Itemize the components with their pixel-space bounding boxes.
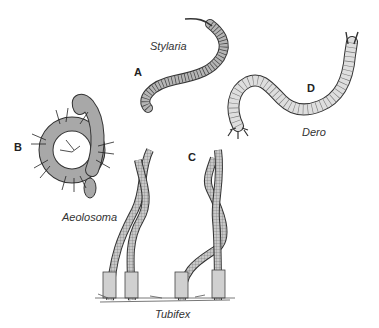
panel-letter-c: C xyxy=(188,151,196,163)
species-label-tubifex: Tubifex xyxy=(155,308,190,320)
panel-letter-a: A xyxy=(134,66,142,78)
panel-letter-b: B xyxy=(14,141,22,153)
stylaria-worm xyxy=(145,19,224,108)
worm-illustration xyxy=(0,0,379,328)
panel-letter-d: D xyxy=(307,82,315,94)
species-label-aeolosoma: Aeolosoma xyxy=(62,211,117,223)
species-label-dero: Dero xyxy=(302,126,326,138)
aeolosoma-worm xyxy=(31,101,114,198)
tubifex-worms xyxy=(95,150,235,302)
dero-worm xyxy=(228,32,358,139)
species-label-stylaria: Stylaria xyxy=(150,40,187,52)
